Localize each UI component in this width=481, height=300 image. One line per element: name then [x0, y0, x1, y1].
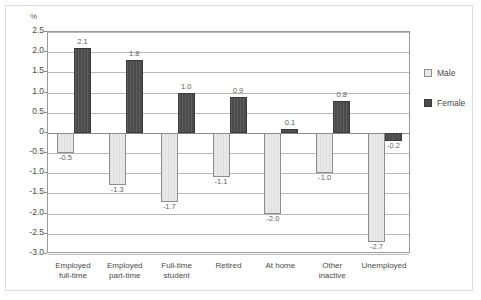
y-axis-tick-mark	[44, 253, 47, 254]
bar-value-label: 0.8	[327, 91, 357, 99]
bar-value-label: -0.2	[379, 142, 409, 150]
y-axis-tick-label: 2.0	[4, 46, 44, 55]
y-axis-unit-label: %	[30, 12, 37, 21]
bar-value-label: -2.0	[258, 215, 288, 223]
chart-legend: MaleFemale	[424, 68, 472, 128]
gridline	[48, 254, 409, 255]
gridline	[48, 52, 409, 53]
bar-female	[281, 129, 298, 133]
y-axis-tick-label: 0.5	[4, 107, 44, 116]
y-axis-tick-label: 0	[4, 127, 44, 136]
y-axis-tick-label: 2.5	[4, 26, 44, 35]
plot-area: -0.52.1-1.31.8-1.71.0-1.10.9-2.00.1-1.00…	[47, 31, 410, 253]
y-axis-tick-label: 1.5	[4, 66, 44, 75]
bar-value-label: 1.8	[119, 50, 149, 58]
bar-female	[178, 93, 195, 133]
bar-male	[161, 133, 178, 202]
legend-item-female[interactable]: Female	[424, 98, 472, 128]
bar-value-label: -1.3	[102, 186, 132, 194]
x-axis-label-line: student	[147, 271, 207, 281]
legend-label: Male	[437, 68, 455, 78]
x-axis-label-line: inactive	[302, 271, 362, 281]
bar-male	[264, 133, 281, 214]
bar-value-label: -0.5	[50, 154, 80, 162]
y-axis-tick-label: 1.0	[4, 87, 44, 96]
bar-female	[126, 60, 143, 133]
y-axis-tick-labels: 2.52.01.51.00.50-0.5-1.0-1.5-2.0-2.5-3.0	[0, 31, 44, 253]
legend-label: Female	[437, 98, 465, 108]
x-axis-category-label: Unemployed	[354, 261, 414, 271]
gridline	[48, 32, 409, 33]
legend-item-male[interactable]: Male	[424, 68, 472, 98]
y-axis-tick-label: -1.0	[4, 167, 44, 176]
gridline	[48, 234, 409, 235]
bar-value-label: 0.1	[275, 119, 305, 127]
bar-female	[385, 133, 402, 141]
bar-female	[333, 101, 350, 133]
y-axis-tick-label: -0.5	[4, 147, 44, 156]
bar-male	[109, 133, 126, 185]
bar-female	[230, 97, 247, 133]
bar-value-label: -1.1	[206, 178, 236, 186]
bar-value-label: -1.7	[154, 203, 184, 211]
bar-value-label: -1.0	[310, 174, 340, 182]
y-axis-tick-label: -3.0	[4, 248, 44, 257]
chart-figure: % 2.52.01.51.00.50-0.5-1.0-1.5-2.0-2.5-3…	[0, 0, 481, 300]
x-axis-label-line: Unemployed	[354, 261, 414, 271]
bar-male	[213, 133, 230, 177]
bar-male	[316, 133, 333, 173]
y-axis-tick-label: -2.0	[4, 208, 44, 217]
gridline	[48, 72, 409, 73]
gridline	[48, 214, 409, 215]
legend-swatch-male	[424, 69, 432, 77]
bar-value-label: 2.1	[67, 38, 97, 46]
bar-value-label: 0.9	[223, 87, 253, 95]
legend-swatch-female	[424, 99, 432, 107]
y-axis-tick-label: -2.5	[4, 228, 44, 237]
y-axis-tick-label: -1.5	[4, 187, 44, 196]
bar-male	[57, 133, 74, 153]
bar-female	[74, 48, 91, 133]
bar-value-label: -2.7	[362, 243, 392, 251]
bar-value-label: 1.0	[171, 83, 201, 91]
gridline	[48, 113, 409, 114]
